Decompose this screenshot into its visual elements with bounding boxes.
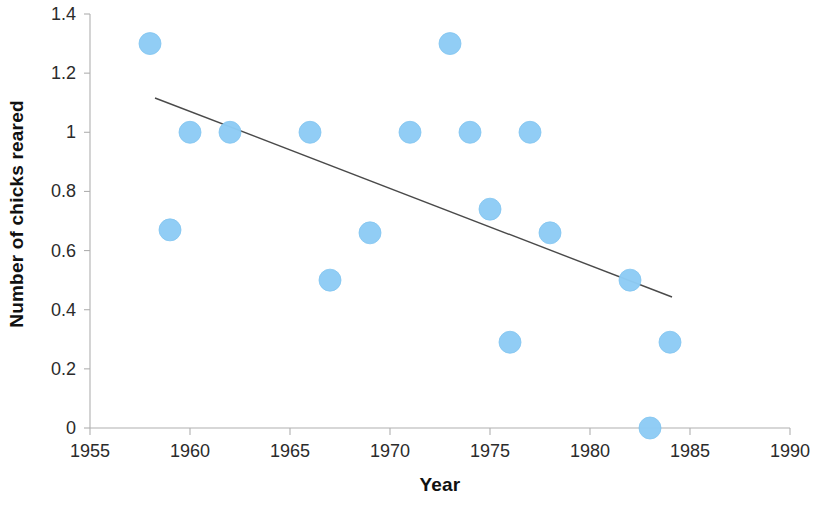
data-point-marker <box>439 33 461 55</box>
data-point-marker <box>459 121 481 143</box>
data-point-marker <box>619 269 641 291</box>
axis-lines <box>90 14 790 428</box>
data-point-marker <box>179 121 201 143</box>
data-point-marker <box>319 269 341 291</box>
data-points <box>139 33 681 439</box>
data-point-marker <box>299 121 321 143</box>
data-point-marker <box>639 417 661 439</box>
data-point-marker <box>499 331 521 353</box>
data-point-marker <box>399 121 421 143</box>
data-point-marker <box>159 219 181 241</box>
data-point-marker <box>539 222 561 244</box>
data-point-marker <box>139 33 161 55</box>
data-point-marker <box>519 121 541 143</box>
scatter-chart: Number of chicks reared Year 00.20.40.60… <box>0 0 821 505</box>
plot-area <box>0 0 821 505</box>
data-point-marker <box>219 121 241 143</box>
data-point-marker <box>479 198 501 220</box>
data-point-marker <box>359 222 381 244</box>
axis-tick-marks <box>84 14 790 435</box>
data-point-marker <box>659 331 681 353</box>
